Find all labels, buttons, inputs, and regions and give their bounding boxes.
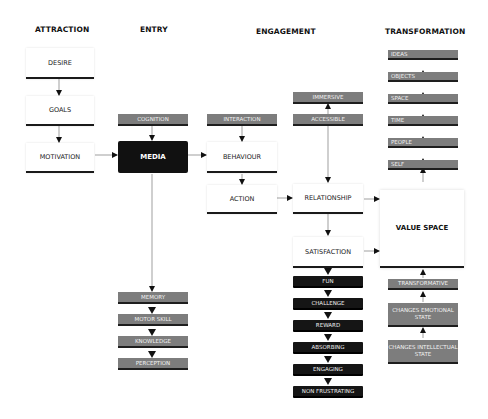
- node-changes-intellectual-state: CHANGES INTELLECTUAL STATE: [388, 340, 458, 364]
- node-media: MEDIA: [118, 141, 188, 173]
- node-self: SELF: [388, 160, 458, 170]
- node-perception: PERCEPTION: [118, 358, 188, 370]
- header-transformation: TRANSFORMATION: [385, 27, 465, 36]
- node-value-space: VALUE SPACE: [380, 190, 464, 268]
- node-interaction: INTERACTION: [207, 114, 277, 126]
- node-motor-skill: MOTOR SKILL: [118, 314, 188, 326]
- node-relationship: RELATIONSHIP: [293, 184, 363, 214]
- node-time: TIME: [388, 116, 458, 126]
- node-desire: DESIRE: [26, 48, 94, 79]
- header-attraction: ATTRACTION: [35, 25, 89, 34]
- node-action: ACTION: [207, 185, 277, 214]
- node-cognition: COGNITION: [118, 114, 188, 126]
- node-people: PEOPLE: [388, 138, 458, 148]
- node-satisfaction: SATISFACTION: [293, 237, 363, 268]
- node-changes-emotional-state: CHANGES EMOTIONAL STATE: [388, 303, 458, 327]
- node-challenge: CHALLENGE: [293, 298, 363, 310]
- node-reward: REWARD: [293, 320, 363, 332]
- node-absorbing: ABSORBING: [293, 342, 363, 354]
- node-memory: MEMORY: [118, 292, 188, 304]
- header-entry: ENTRY: [140, 25, 168, 34]
- node-objects: OBJECTS: [388, 72, 458, 82]
- node-behaviour: BEHAVIOUR: [207, 142, 277, 173]
- node-ideas: IDEAS: [388, 50, 458, 60]
- node-non-frustrating: NON FRUSTRATING: [293, 386, 363, 398]
- node-goals: GOALS: [26, 96, 94, 126]
- node-accessible: ACCESSIBLE: [293, 114, 363, 126]
- node-fun: FUN: [293, 276, 363, 288]
- node-space: SPACE: [388, 94, 458, 104]
- node-immersive: IMMERSIVE: [293, 92, 363, 104]
- node-engaging: ENGAGING: [293, 364, 363, 376]
- node-motivation: MOTIVATION: [26, 143, 94, 173]
- node-transformative: TRANSFORMATIVE: [388, 279, 458, 290]
- header-engagement: ENGAGEMENT: [256, 27, 316, 36]
- node-knowledge: KNOWLEDGE: [118, 336, 188, 348]
